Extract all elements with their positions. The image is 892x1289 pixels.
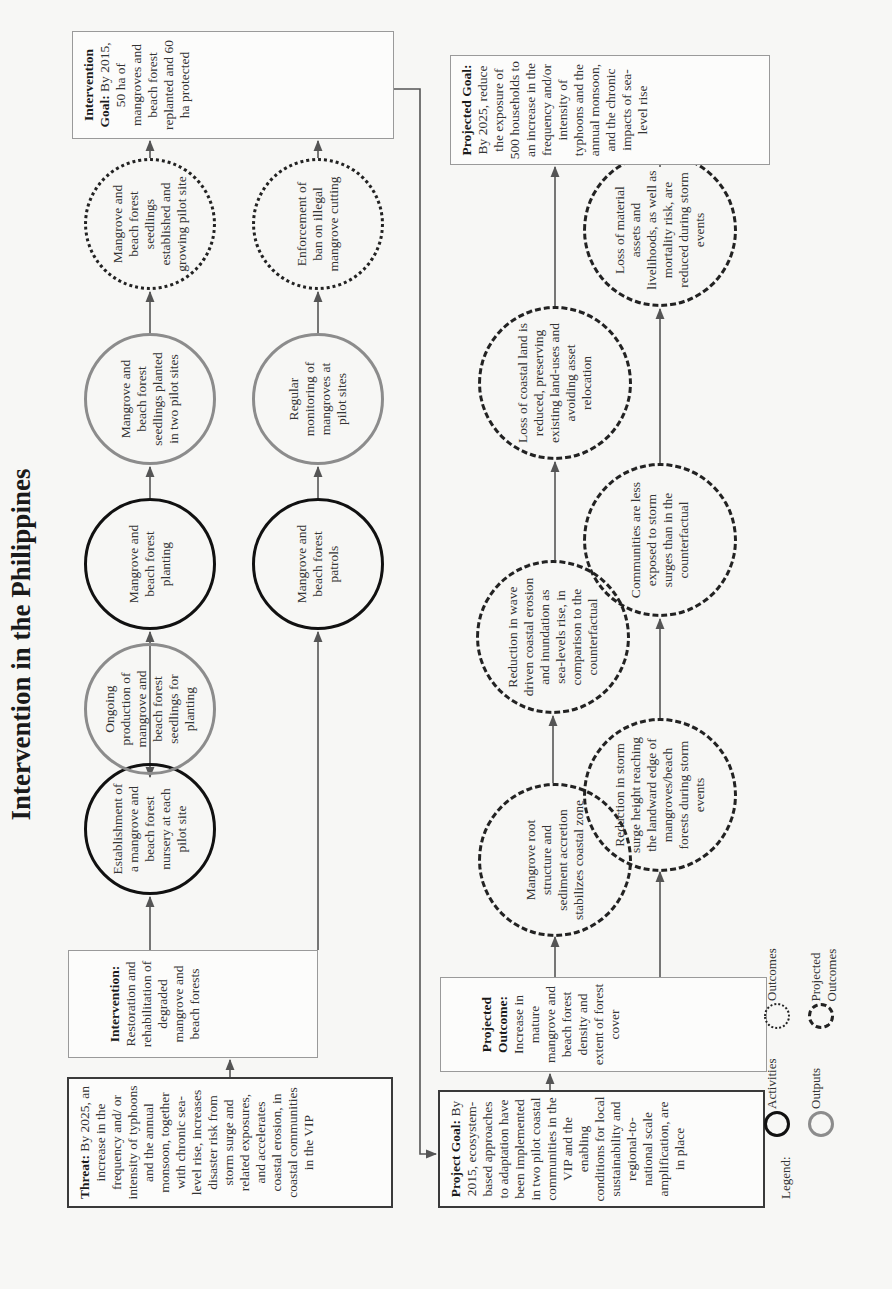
projected-storm-surge-reduction: Reduction in storm surge height reaching… [583,718,737,872]
projected-outcome-text: Increase in mature mangrove and beach fo… [511,984,622,1066]
circle-text: Loss of material assets and livelihoods,… [612,170,708,290]
outcome-circle-icon [764,1003,790,1029]
legend-outputs-label: Outputs [808,1068,824,1109]
activity-circle-icon [764,1111,790,1137]
intervention-goal-box: Intervention Goal: By 2015, 50 ha of man… [72,31,394,139]
projected-goal-box: Projected Goal: By 2025, reduce the expo… [450,55,770,165]
projected-goal-label: Projected Goal: [459,65,474,156]
intervention-label: Intervention: [107,966,122,1043]
projected-community-exposure: Communities are less exposed to storm su… [583,463,737,617]
threat-box: Threat: By 2025, an increase in the freq… [67,1077,393,1208]
output-seedlings-planted: Mangrove and beach forest seedlings plan… [84,333,216,465]
projected-outcome-label: Projected Outcome: [479,996,510,1053]
projected-coastal-land-loss: Loss of coastal land is reduced, preserv… [478,306,632,460]
activity-nursery-establishment: Establishment of a mangrove and beach fo… [84,763,216,895]
circle-text: Mangrove and beach forest planting [126,515,174,613]
threat-label: Threat: [77,1155,92,1199]
legend-projected-outcomes: Projected Outcomes [808,899,840,1029]
legend-outcomes: Outcomes [764,948,790,1029]
circle-text: Reduction in storm surge height reaching… [612,735,708,855]
intervention-box: Intervention: Restoration and rehabilita… [68,950,318,1058]
project-goal-label: Project Goal: [448,1120,463,1197]
outcome-ban-enforcement: Enforcement of ban on illegal mangrove c… [252,158,384,290]
legend-activities: Activities [764,1058,790,1137]
legend-activities-label: Activities [764,1058,780,1109]
circle-text: Communities are less exposed to storm su… [628,480,692,600]
circle-text: Loss of coastal land is reduced, preserv… [515,323,595,443]
circle-text: Enforcement of ban on illegal mangrove c… [294,175,342,273]
output-regular-monitoring: Regular monitoring of mangroves at pilot… [252,333,384,465]
circle-text: Reduction in wave driven coastal erosion… [505,577,601,697]
legend-outputs: Outputs [808,1068,834,1137]
activity-forest-patrols: Mangrove and beach forest patrols [252,498,384,630]
legend-outcomes-label: Outcomes [764,948,780,1001]
activity-forest-planting: Mangrove and beach forest planting [84,498,216,630]
circle-text: Establishment of a mangrove and beach fo… [110,780,190,878]
theory-of-change-diagram: Intervention in the Philippines [0,0,892,1289]
projected-asset-loss-reduction: Loss of material assets and livelihoods,… [583,153,737,307]
projected-circle-icon [808,1003,834,1029]
outcome-seedlings-established: Mangrove and beach forest seedlings esta… [84,158,216,290]
legend-label: Legend: [778,1156,794,1199]
projected-goal-text: By 2025, reduce the exposure of 500 hous… [475,61,650,159]
diagram-title: Intervention in the Philippines [6,0,37,1289]
circle-text: Mangrove and beach forest seedlings plan… [118,350,182,448]
output-circle-icon [808,1111,834,1137]
circle-text: Mangrove and beach forest seedlings esta… [110,175,190,273]
circle-text: Mangrove and beach forest patrols [294,515,342,613]
legend: Legend: Activities Outputs Outcomes Proj… [690,899,880,1199]
intervention-text: Restoration and rehabilitation of degrad… [123,961,202,1048]
threat-text: By 2025, an increase in the frequency an… [77,1086,316,1200]
legend-projected-outcomes-label: Projected Outcomes [808,899,840,1001]
circle-text: Ongoing production of mangrove and beach… [102,660,198,758]
output-seedling-production: Ongoing production of mangrove and beach… [84,643,216,775]
circle-text: Mangrove root structure and sediment acc… [523,800,587,920]
circle-text: Regular monitoring of mangroves at pilot… [286,350,350,448]
project-goal-text: By 2015, ecosystem-based approaches to a… [448,1097,687,1202]
